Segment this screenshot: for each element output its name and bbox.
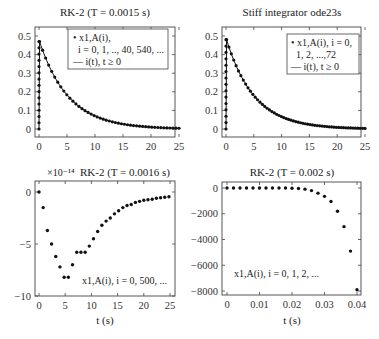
data-point [138,200,141,203]
data-point [316,191,319,194]
panel-rk2-t0016: ×10⁻¹⁴ RK-2 (T = 0.0016 s) 05101520250−5… [15,166,176,327]
data-point [264,186,267,189]
x-tick-label: 25 [174,141,185,152]
y-tick-label: 0.4 [18,49,32,60]
y-tick-label: 0 [213,124,218,135]
x-tick-label: 0.02 [283,299,301,310]
data-point [46,229,49,232]
x-tick-label: 15 [304,141,315,152]
figure-canvas: RK-2 (T = 0.0015 s) 051015202500.10.20.3… [0,0,379,339]
data-point [238,186,241,189]
panel-title: Stiff integrator ode23s [243,6,342,18]
panel-title: RK-2 (T = 0.002 s) [250,166,335,179]
data-point [96,230,99,233]
data-point [232,186,235,189]
data-point [146,198,149,201]
data-point [290,186,293,189]
data-point [284,186,287,189]
data-point [310,189,313,192]
y-tick-label: −6000 [191,260,218,271]
x-tick-label: 5 [64,141,69,152]
x-tick-label: 25 [360,141,371,152]
x-tick-label: 10 [276,141,287,152]
y-tick-label: −2000 [191,208,218,219]
panel-rk2-t002: RK-2 (T = 0.002 s) 00.010.020.030.040−20… [191,166,367,327]
x-tick-label: 0 [224,299,229,310]
data-point [104,219,107,222]
x-tick-label: 0.03 [315,299,333,310]
y-tick-label: 0.5 [18,31,31,42]
annotation: x1,A(i), i = 0, 500, ... [82,275,167,287]
legend-line-2: i = 0, 1, .., 40, 540, ... [73,44,164,55]
data-point [355,288,358,291]
data-point [155,197,158,200]
x-tick-label: 10 [86,300,97,311]
exponent-label: ×10⁻¹⁴ [47,167,75,178]
data-point [75,251,78,254]
x-tick-label: 0 [36,300,41,311]
x-tick-label: 10 [90,141,101,152]
y-tick-label: 0 [26,124,31,135]
data-point [225,186,228,189]
data-point [125,204,128,207]
y-tick-label: 0.5 [205,31,218,42]
x-tick-label: 0 [223,141,228,152]
data-point [50,242,53,245]
data-point [121,206,124,209]
x-tick-label: 0.01 [250,299,268,310]
data-point [83,251,86,254]
y-tick-label: 0.3 [18,68,31,79]
data-point [109,216,112,219]
data-point [251,186,254,189]
data-point [150,198,153,201]
x-tick-label: 20 [146,141,157,152]
data-point [329,200,332,203]
data-point [54,255,57,258]
data-point [245,186,248,189]
data-point [271,186,274,189]
data-point [167,195,170,198]
panel-title: RK-2 (T = 0.0015 s) [60,6,150,19]
panel-ode23s: Stiff integrator ode23s 051015202500.10.… [205,6,370,152]
data-point [342,225,345,228]
y-tick-label: −10 [15,291,31,302]
y-tick-label: 0.2 [18,86,31,97]
legend: • x1,A(i), i = 0, 1, 2, ...,72 — i(t), t… [287,34,359,74]
x-tick-label: 15 [118,141,129,152]
y-tick-label: 0.3 [205,68,218,79]
y-tick-label: −4000 [191,234,218,245]
x-axis-label: t (s) [96,314,114,327]
legend-line-3: — i(t), t ≥ 0 [72,56,121,68]
x-tick-label: 25 [165,300,176,311]
data-point [134,201,137,204]
panel-title: RK-2 (T = 0.0016 s) [80,166,170,179]
data-point [142,199,145,202]
panel-rk2-t0015: RK-2 (T = 0.0015 s) 051015202500.10.20.3… [18,6,184,152]
data-point [100,224,103,227]
data-point [88,244,91,247]
x-tick-label: 20 [139,300,150,311]
x-tick-label: 15 [112,300,123,311]
data-point [58,265,61,268]
data-point [41,206,44,209]
x-tick-label: 0 [36,141,41,152]
data-point [336,209,339,212]
data-point [92,237,95,240]
data-point [297,187,300,190]
data-point [37,190,40,193]
x-tick-label: 20 [332,141,343,152]
axis-ticks: 00.010.020.030.040−2000−4000−6000−8000 [191,182,367,310]
data-point [67,276,70,279]
data-point [117,209,120,212]
data-point [303,187,306,190]
data-point [258,186,261,189]
y-tick-label: 0.4 [205,49,219,60]
legend-line-3: — i(t), t ≥ 0 [290,61,339,73]
data-point [130,203,133,206]
data-series [37,190,170,279]
y-tick-label: −5 [20,239,31,250]
y-tick-label: 0.2 [205,86,218,97]
data-point [71,263,74,266]
y-tick-label: 0 [26,187,31,198]
data-point [163,196,166,199]
